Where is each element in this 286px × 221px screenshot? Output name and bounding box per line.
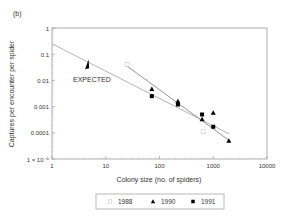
panel-label: (b) [13,10,22,18]
x-tick-label: 100 [154,163,165,169]
x-axis-label: Colony size (no. of spiders) [117,176,202,184]
x-axis: 110100100010000 [50,156,276,169]
triangle-marker [211,110,216,115]
legend-label: 1990 [161,198,176,205]
x-tick-label: 1000 [207,163,221,169]
square-marker [200,112,204,116]
y-axis-label: Captures per encounter per spider [8,40,16,147]
legend-label: 1988 [118,198,133,205]
square-marker [191,200,195,204]
square-marker [150,94,154,98]
square-marker [211,125,215,129]
trend-lines [52,44,229,141]
plot-frame [52,28,267,159]
x-tick-label: 10 [102,163,109,169]
y-tick-label: 0.01 [37,78,49,84]
chart: (b) 10.10.010.0010.00011 × 10⁻⁵ 11010010… [0,0,286,221]
triangle-marker [149,86,154,91]
x-tick-label: 1 [50,163,54,169]
y-tick-label: 1 × 10⁻⁵ [27,157,50,163]
y-tick-label: 0.0001 [31,130,50,136]
y-tick-label: 0.001 [34,104,50,110]
y-axis: 10.10.010.0010.00011 × 10⁻⁵ [27,26,55,163]
open-square-marker [125,63,129,67]
open-square-marker [201,130,205,134]
y-tick-label: 0.1 [41,52,50,58]
legend: 198819901991 [96,194,224,209]
x-tick-label: 10000 [259,163,276,169]
expected-label: EXPECTED [73,76,111,83]
square-marker [176,103,180,107]
legend-label: 1991 [201,198,216,205]
y-tick-label: 1 [46,26,50,32]
